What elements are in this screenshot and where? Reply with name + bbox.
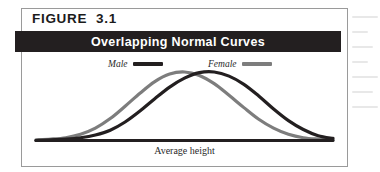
chart-area: Male Female Average height bbox=[26, 55, 343, 161]
legend-swatch-male bbox=[133, 62, 163, 66]
figure-title: Overlapping Normal Curves bbox=[91, 35, 265, 49]
legend-item-male: Male bbox=[108, 59, 163, 69]
legend-item-female: Female bbox=[208, 59, 272, 69]
legend-label-female: Female bbox=[208, 59, 237, 69]
normal-curves-plot bbox=[26, 69, 343, 143]
legend-swatch-female bbox=[242, 62, 272, 66]
page-bleed-through bbox=[352, 16, 378, 156]
legend-label-male: Male bbox=[108, 59, 128, 69]
x-axis-label: Average height bbox=[26, 145, 343, 156]
figure-number-label: FIGURE 3.1 bbox=[32, 11, 117, 26]
male-normal-curve bbox=[36, 72, 333, 141]
figure-title-bar: Overlapping Normal Curves bbox=[15, 31, 341, 52]
female-normal-curve bbox=[36, 72, 333, 140]
